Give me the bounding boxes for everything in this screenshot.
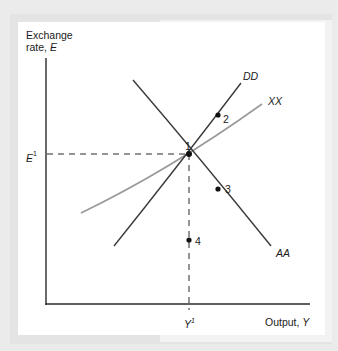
y-axis-label: Exchange rate, E: [26, 29, 73, 53]
dd-curve: [114, 83, 241, 246]
point-2-marker: [215, 112, 220, 117]
dd-curve-label: DD: [243, 70, 258, 82]
point-2-label: 2: [223, 113, 229, 125]
xx-curve-label: XX: [268, 95, 282, 107]
y-axis-label-line1: Exchange: [26, 29, 73, 41]
x-tick-y1-label: Y1: [184, 315, 195, 330]
x-axis-label: Output, Y: [265, 316, 309, 328]
y-axis-label-line2: rate, E: [26, 41, 73, 53]
aa-curve-label: AA: [276, 247, 290, 259]
point-1-label: 1: [185, 140, 191, 152]
aa-curve: [133, 80, 271, 246]
point-4-label: 4: [195, 235, 201, 247]
point-3-label: 3: [225, 183, 231, 195]
point-4-marker: [186, 237, 191, 242]
xx-curve: [81, 104, 262, 213]
y-tick-e1-label: E1: [26, 149, 37, 164]
point-3-marker: [215, 186, 220, 191]
